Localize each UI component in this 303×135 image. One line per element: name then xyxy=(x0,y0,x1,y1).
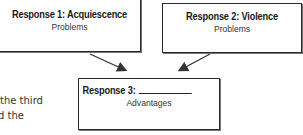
body-text-line-1: the third xyxy=(0,95,43,106)
response-3-subtitle: Advantages xyxy=(86,97,212,108)
response-1-title: Response 1: Acquiescence xyxy=(7,8,131,20)
response-2-box: Response 2: Violence Problems xyxy=(162,3,302,53)
response-1-box: Response 1: Acquiescence Problems xyxy=(0,0,141,52)
response-2-subtitle: Problems xyxy=(170,23,294,34)
response-2-title: Response 2: Violence xyxy=(171,10,292,22)
response-3-blank-line xyxy=(139,84,192,94)
response-3-title-row: Response 3: xyxy=(79,84,202,96)
response-3-title: Response 3: xyxy=(83,84,136,96)
arrow-response2-to-response3 xyxy=(180,54,210,70)
response-1-subtitle: Problems xyxy=(6,21,133,32)
arrow-response1-to-response3 xyxy=(90,54,125,70)
response-3-box: Response 3: Advantages xyxy=(78,78,220,130)
body-text-line-2: d the xyxy=(0,110,24,121)
